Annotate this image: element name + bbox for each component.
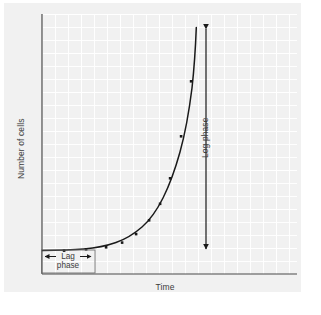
growth-curve-markers <box>63 80 193 252</box>
x-axis-label: Time <box>120 283 210 293</box>
growth-curve-figure: Number of cells Time Log phase Lag phase <box>0 0 321 315</box>
lag-phase-annotation: Lag phase <box>41 250 95 273</box>
y-axis-label: Number of cells <box>17 99 27 199</box>
lag-phase-line-1: Lag <box>41 252 95 261</box>
growth-curve-line <box>42 28 196 251</box>
lag-phase-annotation-label: Lag phase <box>41 252 95 270</box>
lag-phase-line-2: phase <box>41 261 95 270</box>
log-phase-annotation-label: Log phase <box>201 110 211 166</box>
